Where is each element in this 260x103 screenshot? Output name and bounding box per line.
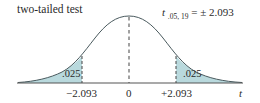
- tick-label-left: −2.093: [66, 88, 97, 99]
- x-axis-label: t: [239, 88, 242, 99]
- tick-label-right: +2.093: [161, 88, 192, 99]
- critical-value-annotation: t .05, 19 = ± 2.093: [162, 7, 234, 18]
- right-tail-area-label: .025: [183, 69, 201, 80]
- t-subscript: .05, 19: [168, 12, 189, 21]
- t-symbol: t: [162, 6, 165, 18]
- tick-label-center: 0: [126, 88, 132, 99]
- chart-title: two-tailed test: [17, 4, 82, 16]
- t-distribution-figure: two-tailed test t .05, 19 = ± 2.093 .025…: [0, 0, 260, 103]
- critical-value: = ± 2.093: [191, 6, 234, 18]
- density-curve: [18, 16, 242, 83]
- left-tail-area-label: .025: [62, 69, 80, 80]
